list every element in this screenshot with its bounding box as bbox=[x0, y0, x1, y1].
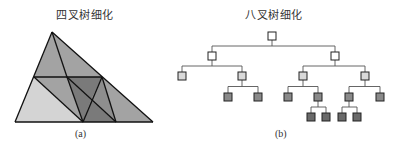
tree-node bbox=[338, 113, 346, 121]
tree-node bbox=[353, 113, 361, 121]
tree-node bbox=[178, 72, 186, 80]
tree-node bbox=[284, 93, 292, 101]
tree-node bbox=[224, 93, 232, 101]
tree-node bbox=[376, 93, 384, 101]
octree-tree bbox=[178, 32, 384, 121]
tree-node bbox=[254, 93, 262, 101]
tree-node bbox=[322, 113, 330, 121]
tree-node bbox=[238, 72, 246, 80]
tree-node bbox=[345, 93, 353, 101]
tree-node bbox=[208, 52, 216, 60]
tree-node bbox=[307, 113, 315, 121]
tree-node bbox=[268, 32, 276, 40]
tree-node bbox=[331, 52, 339, 60]
tree-node bbox=[361, 72, 369, 80]
tree-node bbox=[299, 72, 307, 80]
diagram-canvas bbox=[0, 0, 396, 151]
tree-node bbox=[314, 93, 322, 101]
quadtree-triangle bbox=[15, 32, 153, 122]
